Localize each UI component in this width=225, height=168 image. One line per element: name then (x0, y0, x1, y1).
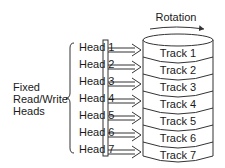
track-label: Track 7 (160, 149, 196, 161)
rotation-arrow-forward-icon (150, 27, 204, 29)
head-label: Head 2 (79, 58, 114, 70)
head-label: Head 4 (79, 92, 114, 104)
track-label: Track 4 (160, 98, 196, 110)
head-label: Head 3 (79, 75, 114, 87)
rotation-label: Rotation (156, 11, 197, 23)
group-label-line1: Fixed (13, 81, 40, 93)
head-label: Head 6 (79, 126, 114, 138)
group-label-line3: Heads (13, 105, 45, 117)
track-label: Track 5 (160, 115, 196, 127)
head-label: Head 5 (79, 109, 114, 121)
head-label: Head 1 (79, 41, 114, 53)
track-labels: Track 1 Track 2 Track 3 Track 4 Track 5 … (160, 47, 196, 161)
track-label: Track 6 (160, 132, 196, 144)
group-label-line2: Read/Write (13, 93, 68, 105)
head-labels: Head 1 Head 2 Head 3 Head 4 Head 5 Head … (79, 41, 114, 155)
head-label: Head 7 (79, 143, 114, 155)
group-label: Fixed Read/Write Heads (13, 81, 68, 117)
track-label: Track 1 (160, 47, 196, 59)
fixed-head-disk-diagram: Rotation Track 1 Track 2 Track 3 Track 4… (0, 0, 225, 168)
track-label: Track 2 (160, 64, 196, 76)
track-label: Track 3 (160, 81, 196, 93)
